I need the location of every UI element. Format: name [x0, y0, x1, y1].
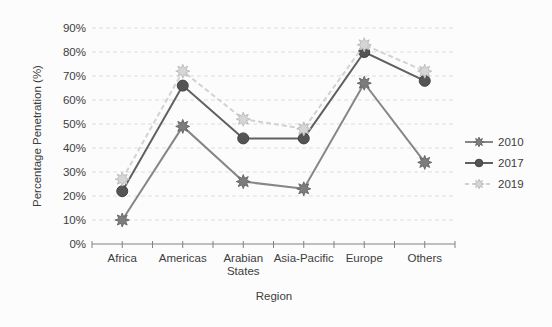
y-tick-label: 80% — [63, 46, 86, 58]
marker-2019-Others — [418, 64, 432, 78]
x-tick-label: Others — [407, 252, 442, 264]
marker-2010-Asia-Pacific — [297, 182, 311, 196]
y-tick-label: 60% — [63, 94, 86, 106]
y-tick-label: 40% — [63, 142, 86, 154]
y-tick-label: 20% — [63, 190, 86, 202]
marker-2019-Arabian — [236, 112, 250, 126]
series-line-2010 — [122, 83, 425, 220]
marker-2010-Arabian — [236, 175, 250, 189]
legend-item-2019: 2019 — [464, 173, 524, 194]
x-tick-label: Europe — [346, 252, 383, 264]
legend-glyph-2019 — [464, 176, 494, 192]
y-tick-label: 30% — [63, 166, 86, 178]
legend-glyph-2017 — [464, 155, 494, 171]
penetration-line-chart: Percentage Penetration (%) 0%10%20%30%40… — [0, 0, 552, 327]
marker-2019-Africa — [115, 172, 129, 186]
legend-label-2017: 2017 — [498, 157, 524, 169]
x-tick-label: ArabianStates — [223, 252, 263, 277]
legend: 201020172019 — [464, 131, 524, 194]
y-tick-label: 50% — [63, 118, 86, 130]
x-axis-title: Region — [256, 290, 292, 302]
legend-label-2010: 2010 — [498, 136, 524, 148]
y-tick-label: 10% — [63, 214, 86, 226]
x-tick-label: Africa — [108, 252, 138, 264]
marker-2010-Africa — [115, 213, 129, 227]
marker-2010-Americas — [176, 119, 190, 133]
marker-2010-Others — [418, 155, 432, 169]
marker-2017-Americas — [177, 80, 188, 91]
y-tick-label: 70% — [63, 70, 86, 82]
x-tick-label: Asia-Pacific — [274, 252, 334, 264]
legend-glyph-2010 — [464, 134, 494, 150]
legend-item-2010: 2010 — [464, 131, 524, 152]
marker-2019-Europe — [357, 38, 371, 52]
y-tick-label: 90% — [63, 22, 86, 34]
marker-2010-Europe — [357, 76, 371, 90]
x-tick-label: Americas — [159, 252, 207, 264]
legend-item-2017: 2017 — [464, 152, 524, 173]
legend-label-2019: 2019 — [498, 178, 524, 190]
y-tick-label: 0% — [69, 238, 86, 250]
marker-2017-Arabian — [238, 133, 249, 144]
series-line-2017 — [122, 52, 425, 191]
marker-2019-Asia-Pacific — [297, 122, 311, 136]
marker-2019-Americas — [176, 64, 190, 78]
